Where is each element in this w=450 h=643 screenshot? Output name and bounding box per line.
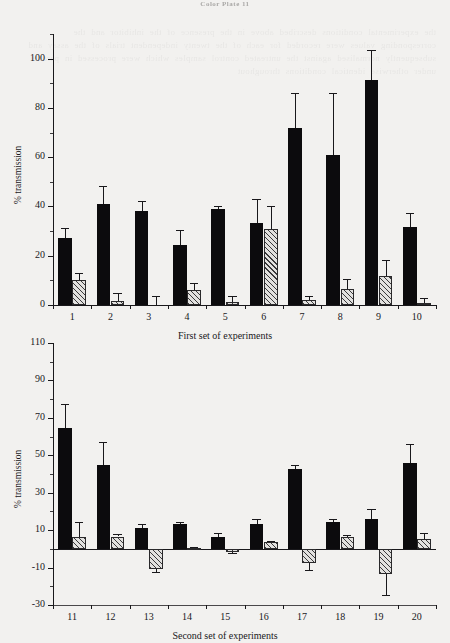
- error-cap-solid-4: [176, 230, 184, 231]
- x-tick: [359, 305, 360, 309]
- error-cap-hatched-1: [75, 273, 83, 274]
- error-cap-hatched-12: [113, 534, 121, 535]
- error-bar-hatched-1: [79, 273, 80, 280]
- error-bar-solid-4: [180, 230, 181, 245]
- x-tick: [206, 305, 207, 309]
- bar-solid-11: [58, 428, 72, 549]
- bar-hatched-11: [72, 537, 86, 549]
- x-tick-label-17: 17: [283, 611, 321, 622]
- bar-solid-8: [326, 155, 340, 305]
- y-tick: [48, 343, 53, 344]
- y-tick: [48, 108, 53, 109]
- y-tick-label: 20: [7, 249, 45, 260]
- bar-solid-15: [211, 537, 225, 549]
- error-cap-solid-1: [61, 228, 69, 229]
- y-tick-minor: [50, 133, 53, 134]
- error-bar-hatched-2: [118, 293, 119, 301]
- bar-solid-19: [365, 519, 379, 549]
- y-tick-minor: [50, 83, 53, 84]
- error-bar-hatched-9: [386, 260, 387, 276]
- error-cap-solid-2: [99, 186, 107, 187]
- y-tick-label: -30: [7, 598, 45, 609]
- error-cap-hatched-13: [152, 572, 160, 573]
- error-cap-hatched-15: [228, 553, 236, 554]
- bar-hatched-7: [302, 300, 316, 305]
- bar-solid-2: [97, 204, 111, 305]
- error-bar-solid-3: [142, 201, 143, 211]
- error-cap-solid-12: [99, 442, 107, 443]
- y-tick: [48, 206, 53, 207]
- x-tick-label-7: 7: [283, 311, 321, 322]
- error-bar-solid-10: [410, 213, 411, 227]
- error-bar-hatched-6: [271, 206, 272, 229]
- error-bar-solid-12: [103, 442, 104, 465]
- error-bar-hatched-11: [79, 522, 80, 537]
- y-tick-minor: [50, 511, 53, 512]
- x-tick-label-8: 8: [321, 311, 359, 322]
- x-tick-label-6: 6: [245, 311, 283, 322]
- y-tick-label: 80: [7, 101, 45, 112]
- x-tick-label-20: 20: [398, 611, 436, 622]
- y-tick-minor: [50, 231, 53, 232]
- y-axis-line: [53, 34, 54, 305]
- x-tick-label-11: 11: [53, 611, 91, 622]
- bar-solid-13: [135, 528, 149, 549]
- y-tick-label: 100: [7, 52, 45, 63]
- bar-solid-3: [135, 211, 149, 305]
- bar-solid-5: [211, 209, 225, 305]
- bar-solid-17: [288, 469, 302, 549]
- bar-hatched-16: [264, 542, 278, 548]
- error-bar-hatched-3: [156, 296, 157, 305]
- error-cap-solid-3: [138, 201, 146, 202]
- error-cap-solid-20: [406, 444, 414, 445]
- error-bar-hatched-19: [386, 574, 387, 595]
- y-tick: [48, 380, 53, 381]
- y-tick: [48, 493, 53, 494]
- y-tick-minor: [50, 549, 53, 550]
- bar-hatched-12: [111, 537, 125, 549]
- y-axis-label: % transmission: [13, 145, 23, 203]
- error-bar-solid-20: [410, 444, 411, 463]
- error-bar-solid-2: [103, 186, 104, 204]
- bar-hatched-6: [264, 229, 278, 305]
- x-tick: [321, 305, 322, 309]
- error-cap-hatched-7: [305, 296, 313, 297]
- y-tick-label: -10: [7, 561, 45, 572]
- y-tick-minor: [50, 586, 53, 587]
- page-header-text: Color Plate 11: [0, 0, 450, 9]
- error-bar-solid-6: [257, 199, 258, 223]
- error-cap-hatched-14: [190, 547, 198, 548]
- y-tick-label: 10: [7, 523, 45, 534]
- bar-hatched-4: [187, 290, 201, 305]
- error-cap-hatched-16: [267, 541, 275, 542]
- bar-solid-10: [403, 227, 417, 305]
- x-tick: [168, 605, 169, 609]
- bar-hatched-17: [302, 549, 316, 563]
- x-tick-label-9: 9: [359, 311, 397, 322]
- error-cap-solid-11: [61, 404, 69, 405]
- error-cap-solid-5: [214, 206, 222, 207]
- error-cap-solid-15: [214, 533, 222, 534]
- bar-solid-16: [250, 524, 264, 549]
- bar-hatched-18: [341, 537, 355, 549]
- error-cap-solid-10: [406, 213, 414, 214]
- error-cap-hatched-5: [228, 296, 236, 297]
- x-tick: [168, 305, 169, 309]
- bar-hatched-19: [379, 549, 393, 574]
- error-cap-solid-17: [291, 465, 299, 466]
- y-tick: [48, 455, 53, 456]
- x-tick: [245, 305, 246, 309]
- error-cap-hatched-4: [190, 283, 198, 284]
- y-axis-line: [53, 343, 54, 605]
- x-tick-label-2: 2: [91, 311, 129, 322]
- x-tick-label-4: 4: [168, 311, 206, 322]
- x-tick-label-12: 12: [91, 611, 129, 622]
- y-tick-minor: [50, 399, 53, 400]
- chart-first-set: 020406080100% transmission12345678910Fir…: [0, 14, 450, 352]
- bar-hatched-2: [111, 301, 125, 305]
- bar-solid-7: [288, 128, 302, 305]
- bar-hatched-5: [226, 302, 240, 305]
- error-cap-solid-16: [252, 519, 260, 520]
- error-bar-solid-7: [295, 93, 296, 127]
- x-tick: [91, 605, 92, 609]
